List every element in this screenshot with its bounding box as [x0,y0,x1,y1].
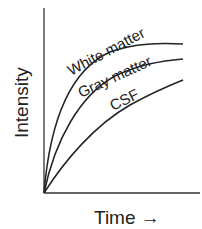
t1-recovery-diagram: White matter Gray matter CSF Intensity T… [0,0,202,229]
x-axis-label: Time → [94,207,160,228]
y-axis-label: Intensity [11,67,32,138]
